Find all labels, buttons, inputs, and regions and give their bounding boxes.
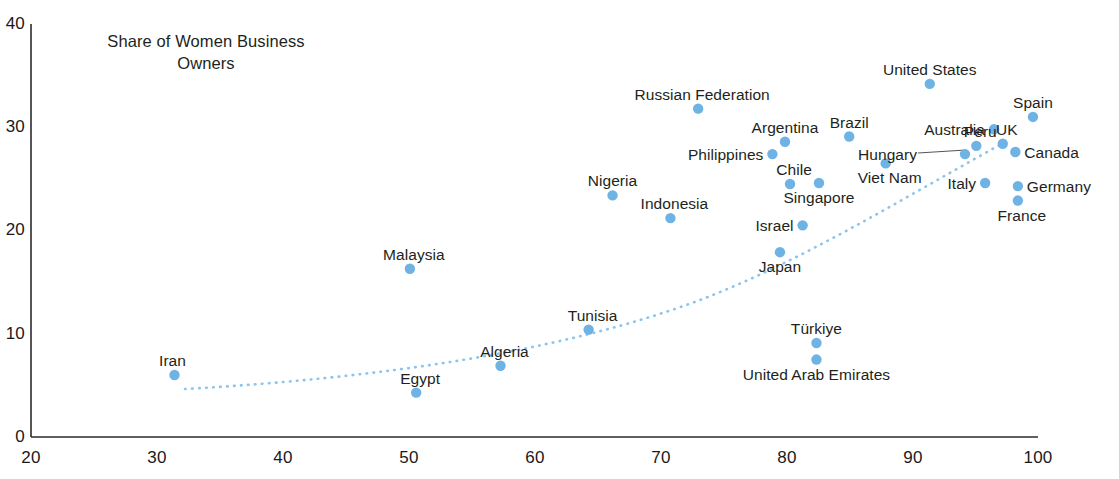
y-tick-10: 10 (0, 324, 25, 344)
scatter-chart: Share of Women Business Owners 40 30 20 … (0, 0, 1119, 479)
point-label: Malaysia (383, 247, 445, 263)
point-label: Egypt (400, 371, 440, 387)
point-label: Russian Federation (634, 87, 769, 103)
x-tick-100: 100 (1024, 448, 1053, 468)
data-point[interactable] (797, 220, 807, 230)
point-label: Israel (755, 219, 793, 235)
y-tick-0: 0 (0, 427, 25, 447)
point-label: Iran (159, 353, 186, 369)
chart-title: Share of Women Business Owners (56, 30, 356, 75)
point-label: Chile (776, 162, 812, 178)
point-label: Nigeria (588, 174, 637, 190)
point-label: Spain (1013, 95, 1053, 111)
data-point[interactable] (780, 137, 790, 147)
point-label: Singapore (783, 190, 854, 206)
x-tick-60: 60 (525, 448, 544, 468)
y-tick-20: 20 (0, 220, 25, 240)
data-point[interactable] (1028, 112, 1038, 122)
data-point[interactable] (785, 179, 795, 189)
data-point[interactable] (925, 79, 935, 89)
data-point[interactable] (405, 264, 415, 274)
point-label: Hungary (858, 147, 917, 163)
point-label: United Arab Emirates (743, 367, 890, 383)
point-label: Tunisia (568, 308, 618, 324)
point-label: France (998, 208, 1047, 224)
x-tick-30: 30 (147, 448, 166, 468)
data-point[interactable] (583, 324, 593, 334)
data-point[interactable] (971, 141, 981, 151)
data-point[interactable] (1010, 147, 1020, 157)
point-label: United States (883, 62, 977, 78)
point-label: Indonesia (641, 196, 709, 212)
x-tick-50: 50 (399, 448, 418, 468)
point-label: Algeria (480, 344, 529, 360)
y-tick-40: 40 (0, 14, 25, 34)
data-point[interactable] (811, 354, 821, 364)
point-label: UK (996, 122, 1018, 138)
x-tick-80: 80 (777, 448, 796, 468)
hungary-leader-line (918, 150, 966, 153)
x-tick-20: 20 (21, 448, 40, 468)
data-point[interactable] (1013, 181, 1023, 191)
data-point[interactable] (607, 190, 617, 200)
point-label: Canada (1024, 145, 1079, 161)
data-point[interactable] (767, 149, 777, 159)
point-label: Italy (947, 176, 976, 192)
data-point[interactable] (411, 387, 421, 397)
data-point[interactable] (980, 178, 990, 188)
point-label: Australia (924, 123, 985, 139)
point-label: Philippines (688, 147, 764, 163)
point-label: Viet Nam (858, 171, 922, 187)
point-label: Argentina (752, 120, 819, 136)
data-point[interactable] (665, 213, 675, 223)
data-point[interactable] (169, 370, 179, 380)
y-tick-30: 30 (0, 117, 25, 137)
point-label: Brazil (830, 115, 869, 131)
data-point[interactable] (495, 361, 505, 371)
data-point[interactable] (775, 247, 785, 257)
data-point[interactable] (1013, 195, 1023, 205)
data-point[interactable] (998, 139, 1008, 149)
data-point[interactable] (844, 131, 854, 141)
point-label: Türkiye (791, 321, 842, 337)
data-point[interactable] (693, 103, 703, 113)
data-point[interactable] (811, 338, 821, 348)
data-point[interactable] (814, 178, 824, 188)
data-point[interactable] (960, 149, 970, 159)
data-point-layer (169, 79, 1038, 398)
x-tick-70: 70 (651, 448, 670, 468)
x-tick-90: 90 (903, 448, 922, 468)
point-label: Japan (759, 259, 801, 275)
point-label: Germany (1027, 179, 1091, 195)
x-tick-40: 40 (273, 448, 292, 468)
